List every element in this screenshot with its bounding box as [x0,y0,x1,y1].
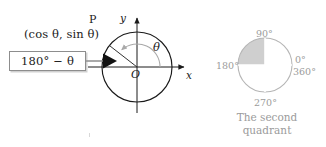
x-axis-label: x [186,70,192,81]
quadrant-key-caption: The second quadrant [225,111,309,138]
quadrant-key-label-0: 0° [295,55,306,65]
trig-figure: 180° − θ P (cos θ, sin θ) θ O y x 90° 18… [0,0,326,147]
angle-expression-callout: 180° − θ [9,51,86,71]
page-speck [89,133,90,137]
point-coordinates-label: (cos θ, sin θ) [24,29,99,41]
quadrant-key-label-90: 90° [256,29,273,39]
origin-label: O [131,69,140,80]
quadrant-key-caption-line1: The second [225,111,309,124]
quadrant-key-label-270: 270° [254,98,277,108]
angle-theta-label: θ [153,42,160,54]
triangle-right-arrowhead-icon [103,54,117,69]
quadrant-key-caption-line2: quadrant [225,124,309,137]
unit-circle-group [88,18,184,113]
quadrant-key-label-180: 180° [216,61,239,71]
y-axis-label: y [120,13,126,24]
quadrant-key-label-360: 360° [293,67,316,77]
quadrant-key-group [238,38,292,92]
point-p-label: P [89,14,96,25]
